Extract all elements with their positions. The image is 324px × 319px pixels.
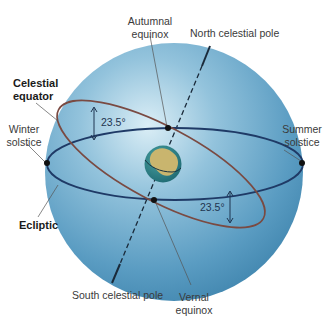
summer-solstice-label: Summer solstice (280, 123, 324, 149)
label-line: Celestial (13, 77, 58, 90)
autumnal-equinox-point (165, 125, 171, 131)
vernal-equinox-label: Vernal equinox (174, 291, 214, 317)
label-line: Autumnal (119, 15, 181, 28)
vernal-equinox-point (151, 197, 157, 203)
winter-solstice-label: Winter solstice (6, 123, 42, 149)
summer-solstice-point (299, 160, 305, 166)
label-line: equinox (174, 304, 214, 317)
autumnal-equinox-label: Autumnal equinox (119, 15, 181, 41)
celestial-equator-label: Celestial equator (13, 77, 58, 103)
celestial-sphere-diagram (0, 0, 324, 319)
celestial-equator-leader (36, 103, 58, 121)
label-line: equator (13, 90, 58, 103)
ecliptic-label: Ecliptic (19, 219, 58, 232)
winter-solstice-point (44, 160, 50, 166)
label-line: Winter (6, 123, 42, 136)
south-celestial-pole-label: South celestial pole (72, 289, 163, 302)
label-line: solstice (6, 136, 42, 149)
label-line: equinox (119, 28, 181, 41)
north-celestial-pole-label: North celestial pole (190, 27, 279, 40)
label-line: Vernal (174, 291, 214, 304)
label-line: Summer (280, 123, 324, 136)
label-line: solstice (280, 136, 324, 149)
lower-angle-label: 23.5° (200, 201, 225, 213)
earth (145, 146, 182, 183)
upper-angle-label: 23.5° (101, 116, 126, 128)
